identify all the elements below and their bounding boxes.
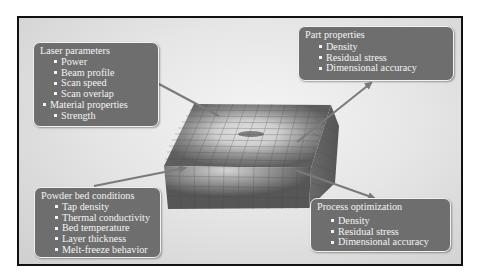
- list-item: Melt-freeze behavior: [41, 245, 154, 256]
- bullet-icon: [54, 92, 57, 95]
- melt-pool-spot: [238, 131, 264, 137]
- list-item: Strength: [40, 111, 152, 122]
- bullet-icon: [319, 67, 322, 70]
- laser-parameters-list: Power Beam profile Scan speed Scan overl…: [40, 57, 152, 122]
- bullet-icon: [54, 114, 57, 117]
- list-item: Dimensional accuracy: [305, 63, 447, 74]
- laser-parameters-box: Laser parameters Power Beam profile Scan…: [33, 42, 159, 127]
- bullet-icon: [55, 205, 58, 208]
- bullet-icon: [319, 56, 322, 59]
- bullet-icon: [43, 103, 46, 106]
- part-properties-box: Part properties Density Residual stress …: [298, 26, 454, 81]
- bullet-icon: [331, 219, 334, 222]
- process-optimization-box: Process optimization Density Residual st…: [310, 198, 451, 252]
- bullet-icon: [331, 230, 334, 233]
- bullet-icon: [331, 241, 334, 244]
- list-item: Material properties: [40, 100, 152, 111]
- process-optimization-title: Process optimization: [317, 202, 444, 213]
- bullet-icon: [55, 237, 58, 240]
- list-item: Dimensional accuracy: [317, 237, 444, 248]
- arrow-laser-to-block: [159, 84, 219, 116]
- bullet-icon: [55, 216, 58, 219]
- part-properties-list: Density Residual stress Dimensional accu…: [305, 42, 447, 74]
- bullet-icon: [54, 82, 57, 85]
- bullet-icon: [55, 227, 58, 230]
- bullet-icon: [54, 71, 57, 74]
- diagram-frame: Laser parameters Power Beam profile Scan…: [17, 16, 463, 266]
- process-optimization-list: Density Residual stress Dimensional accu…: [317, 216, 444, 248]
- part-properties-title: Part properties: [305, 30, 447, 41]
- bullet-icon: [55, 248, 58, 251]
- bullet-icon: [54, 60, 57, 63]
- powder-bed-conditions-list: Tap density Thermal conductivity Bed tem…: [41, 202, 154, 256]
- diagram-scene: Laser parameters Power Beam profile Scan…: [19, 18, 461, 264]
- powder-bed-conditions-box: Powder bed conditions Tap density Therma…: [34, 187, 161, 258]
- laser-parameters-title: Laser parameters: [40, 46, 152, 57]
- bullet-icon: [319, 45, 322, 48]
